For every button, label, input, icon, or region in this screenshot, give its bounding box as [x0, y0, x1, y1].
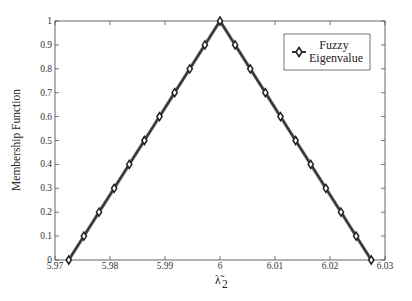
legend: Fuzzy Eigenvalue: [284, 34, 370, 70]
y-tick-label: 0.5: [40, 136, 52, 146]
y-tick-label: 0.2: [40, 207, 52, 217]
x-axis-label-subscript: 2: [222, 278, 228, 290]
y-tick-label: 0.6: [40, 112, 52, 122]
y-tick-label: 0: [47, 255, 52, 265]
x-tick-label: 6: [218, 261, 223, 271]
legend-label-line2: Eigenvalue: [309, 51, 363, 65]
legend-label-line1: Fuzzy: [319, 38, 348, 52]
y-tick-label: 0.8: [40, 64, 52, 74]
x-tick-label: 6.01: [267, 261, 284, 271]
x-tick-label: 6.02: [322, 261, 339, 271]
y-tick-label: 0.1: [40, 231, 52, 241]
x-tick-label: 6.03: [377, 261, 394, 271]
membership-function-chart: 5.975.985.9966.016.026.0300.10.20.30.40.…: [0, 0, 412, 301]
x-tick-label: 5.98: [102, 261, 119, 271]
y-tick-label: 0.7: [40, 88, 52, 98]
y-axis-label: Membership Function: [10, 89, 23, 191]
x-tick-label: 5.99: [157, 261, 174, 271]
y-tick-label: 0.4: [40, 159, 52, 169]
y-tick-label: 0.3: [40, 183, 52, 193]
y-tick-label: 1: [47, 16, 52, 26]
x-axis-label: λ̃ 2: [215, 274, 228, 290]
y-tick-label: 0.9: [40, 40, 52, 50]
